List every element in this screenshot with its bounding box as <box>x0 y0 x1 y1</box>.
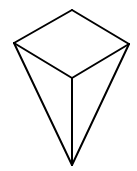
edge-top-left <box>14 10 72 43</box>
kite-polyhedron-diagram <box>0 0 137 171</box>
polyhedron-edges <box>14 10 129 165</box>
edge-top-right <box>72 10 129 44</box>
